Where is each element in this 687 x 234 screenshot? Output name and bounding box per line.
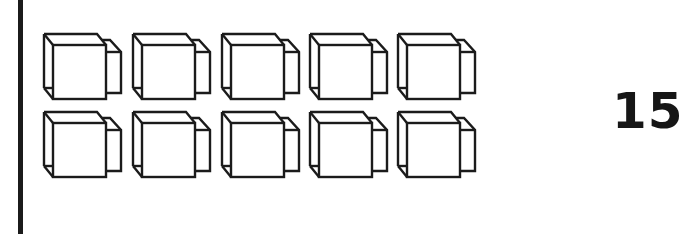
cube-block-icon bbox=[221, 33, 303, 103]
cube-block-icon bbox=[132, 111, 214, 181]
cube-block-icon bbox=[221, 111, 303, 181]
cube-block-icon bbox=[397, 111, 479, 181]
cube-block-icon bbox=[132, 33, 214, 103]
cube-block-icon bbox=[397, 33, 479, 103]
block-grid bbox=[0, 0, 500, 234]
cube-block-icon bbox=[43, 33, 125, 103]
cube-block-icon bbox=[309, 33, 391, 103]
count-label: 15 bbox=[612, 84, 684, 138]
cube-block-icon bbox=[43, 111, 125, 181]
cube-block-icon bbox=[309, 111, 391, 181]
